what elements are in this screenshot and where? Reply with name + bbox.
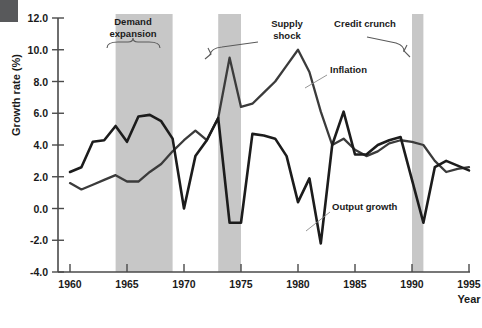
y-tick-label: 8.0: [33, 76, 48, 88]
series-label-inflation: Inflation: [330, 64, 367, 75]
band-demand-expansion: [116, 14, 173, 272]
x-tick-label: 1975: [229, 278, 253, 290]
y-tick-label: 12.0: [28, 12, 49, 24]
x-tick-label: 1980: [286, 278, 310, 290]
x-tick-label: 1965: [115, 278, 139, 290]
annotation-demand-expansion: Demand expansion: [110, 16, 157, 39]
y-tick-label: 6.0: [33, 107, 48, 119]
leader-inflation: [305, 75, 327, 88]
annotation-label: Demand: [114, 16, 152, 27]
x-tick-label: 1990: [400, 278, 424, 290]
x-tick-label: 1970: [172, 278, 196, 290]
y-tick-label: 2.0: [33, 171, 48, 183]
annotation-label: Credit crunch: [334, 18, 396, 29]
y-tick-label: -2.0: [30, 234, 48, 246]
y-axis-tick-labels: 12.0 10.0 8.0 6.0 4.0 2.0 0.0 -2.0 -4.0: [28, 12, 49, 278]
x-tick-label: 1995: [457, 278, 481, 290]
page-corner-block: [0, 0, 18, 22]
brace-tip-credit-crunch: [404, 45, 410, 57]
y-tick-label: -4.0: [30, 266, 48, 278]
economic-growth-chart: 12.0 10.0 8.0 6.0 4.0 2.0 0.0 -2.0 -4.0 …: [0, 0, 482, 328]
series-label-output-growth: Output growth: [332, 201, 398, 212]
annotation-label: shock: [273, 30, 301, 41]
annotation-credit-crunch: Credit crunch: [334, 18, 396, 29]
x-axis-tick-labels: 1960 1965 1970 1975 1980 1985 1990 1995: [58, 278, 481, 290]
y-tick-label: 4.0: [33, 139, 48, 151]
y-tick-label: 10.0: [28, 44, 49, 56]
x-tick-label: 1985: [343, 278, 367, 290]
x-tick-label: 1960: [58, 278, 82, 290]
leader-credit-crunch: [367, 37, 404, 52]
y-axis-title: Growth rate (%): [10, 54, 22, 136]
chart-svg: 12.0 10.0 8.0 6.0 4.0 2.0 0.0 -2.0 -4.0 …: [0, 0, 482, 328]
x-axis-title: Year: [457, 293, 481, 305]
shaded-bands: [116, 14, 424, 272]
annotation-label: expansion: [110, 28, 157, 39]
annotation-supply-shock: Supply shock: [271, 18, 303, 41]
annotation-label: Supply: [271, 18, 303, 29]
y-tick-label: 0.0: [33, 203, 48, 215]
